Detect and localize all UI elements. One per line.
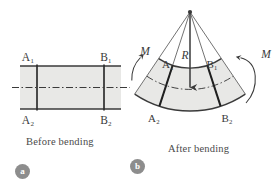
figure-beam-bending: A₁ B₁ A₂ B₂ [0, 0, 276, 189]
caption-before-bending: Before bending [26, 136, 94, 147]
label-radius-r: R [180, 49, 188, 61]
moment-arrow-left [132, 58, 141, 81]
panel-badge-a: a [15, 164, 30, 179]
panel-b-bent-beam: R M M A₁ B₁ A₂ B₂ [132, 10, 272, 124]
label-a2-straight: A₂ [22, 114, 34, 126]
panel-a-straight-beam: A₁ B₁ A₂ B₂ [12, 51, 130, 126]
label-b2-bent: B₂ [221, 112, 232, 124]
curvature-center-dot [188, 10, 192, 14]
label-moment-right: M [260, 48, 272, 60]
label-b1-bent: B₁ [206, 58, 217, 70]
label-a1-straight: A₁ [22, 51, 34, 63]
caption-after-bending: After bending [168, 143, 229, 154]
label-b1-straight: B₁ [100, 51, 112, 63]
panel-badge-b: b [130, 159, 145, 174]
label-b2-straight: B₂ [100, 114, 112, 126]
label-a1-bent: A₁ [162, 58, 174, 70]
label-moment-left: M [139, 45, 151, 57]
label-a2-bent: A₂ [148, 112, 160, 124]
